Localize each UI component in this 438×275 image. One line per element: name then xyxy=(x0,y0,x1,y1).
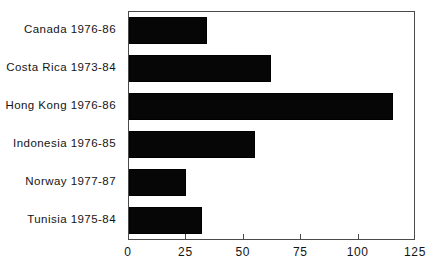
x-axis-tick xyxy=(128,234,129,240)
x-axis-tick-label: 25 xyxy=(178,245,193,259)
category-label: Canada 1976-86 xyxy=(24,16,116,43)
x-axis-tick xyxy=(185,234,186,240)
category-label: Hong Kong 1976-86 xyxy=(5,92,116,119)
bar xyxy=(129,131,255,158)
category-label: Costa Rica 1973-84 xyxy=(6,54,116,81)
x-axis-tick-label: 100 xyxy=(347,245,369,259)
bar-chart: Canada 1976-86 Costa Rica 1973-84 Hong K… xyxy=(0,0,438,275)
bar xyxy=(129,169,186,196)
x-axis-tick-label: 75 xyxy=(293,245,308,259)
x-axis-tick xyxy=(243,234,244,240)
category-axis: Canada 1976-86 Costa Rica 1973-84 Hong K… xyxy=(0,11,122,240)
x-axis-tick xyxy=(414,234,415,240)
x-axis-tick xyxy=(358,234,359,240)
bar xyxy=(129,93,393,120)
x-axis-tick-label: 50 xyxy=(236,245,251,259)
bar xyxy=(129,17,207,44)
x-axis-tick-label: 125 xyxy=(404,245,426,259)
category-label: Norway 1977-87 xyxy=(25,168,116,195)
bars-container xyxy=(129,12,414,239)
category-label: Tunisia 1975-84 xyxy=(27,206,116,233)
bar xyxy=(129,55,271,82)
x-axis: 0255075100125 xyxy=(128,240,415,273)
category-label: Indonesia 1976-85 xyxy=(13,130,116,157)
bar xyxy=(129,207,202,234)
x-axis-tick xyxy=(300,234,301,240)
x-axis-tick-label: 0 xyxy=(124,245,131,259)
plot-area xyxy=(128,11,415,240)
